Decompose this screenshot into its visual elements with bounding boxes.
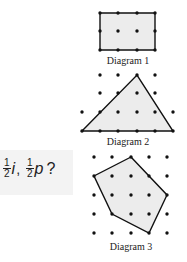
- grid-dot: [129, 193, 132, 196]
- grid-dot: [80, 110, 83, 113]
- grid-dot: [153, 29, 156, 32]
- grid-dot: [92, 174, 95, 177]
- grid-dot: [165, 231, 168, 234]
- grid-dot: [135, 48, 138, 51]
- grid-dot: [98, 91, 101, 94]
- grid-dot: [129, 212, 132, 215]
- grid-dot: [92, 155, 95, 158]
- grid-dot: [116, 29, 119, 32]
- grid-dot: [116, 91, 119, 94]
- grid-dot: [92, 231, 95, 234]
- diagram-3-label: Diagram 3: [91, 241, 171, 252]
- grid-dot: [147, 231, 150, 234]
- dot-grid-diagrams: [0, 0, 187, 262]
- grid-dot: [165, 174, 168, 177]
- grid-dot: [98, 48, 101, 51]
- grid-dot: [135, 110, 138, 113]
- grid-dot: [110, 174, 113, 177]
- grid-dot: [153, 129, 156, 132]
- grid-dot: [98, 110, 101, 113]
- grid-dot: [147, 212, 150, 215]
- diagram-3-pentagon: [92, 155, 168, 234]
- grid-dot: [165, 212, 168, 215]
- grid-dot: [153, 73, 156, 76]
- grid-dot: [116, 129, 119, 132]
- grid-dot: [153, 91, 156, 94]
- grid-dot: [135, 129, 138, 132]
- triangle-shape: [82, 75, 173, 131]
- grid-dot: [165, 193, 168, 196]
- grid-dot: [135, 29, 138, 32]
- grid-dot: [129, 231, 132, 234]
- grid-dot: [116, 110, 119, 113]
- grid-dot: [110, 155, 113, 158]
- grid-dot: [129, 155, 132, 158]
- diagram-2-label: Diagram 2: [88, 136, 168, 147]
- grid-dot: [147, 174, 150, 177]
- grid-dot: [92, 193, 95, 196]
- diagram-1-rectangle: [98, 11, 156, 51]
- grid-dot: [135, 11, 138, 14]
- grid-dot: [98, 129, 101, 132]
- grid-dot: [92, 212, 95, 215]
- grid-dot: [116, 73, 119, 76]
- grid-dot: [153, 48, 156, 51]
- grid-dot: [110, 193, 113, 196]
- grid-dot: [147, 193, 150, 196]
- grid-dot: [80, 129, 83, 132]
- rectangle-shape: [100, 13, 155, 50]
- grid-dot: [171, 129, 174, 132]
- grid-dot: [129, 174, 132, 177]
- grid-dot: [153, 110, 156, 113]
- grid-dot: [98, 11, 101, 14]
- grid-dot: [147, 155, 150, 158]
- grid-dot: [153, 11, 156, 14]
- grid-dot: [98, 29, 101, 32]
- grid-dot: [116, 11, 119, 14]
- grid-dot: [165, 155, 168, 158]
- diagram-2-triangle: [80, 73, 174, 132]
- diagram-1-label: Diagram 1: [88, 55, 168, 66]
- grid-dot: [98, 73, 101, 76]
- grid-dot: [135, 91, 138, 94]
- grid-dot: [171, 110, 174, 113]
- grid-dot: [110, 231, 113, 234]
- grid-dot: [116, 48, 119, 51]
- grid-dot: [110, 212, 113, 215]
- grid-dot: [135, 73, 138, 76]
